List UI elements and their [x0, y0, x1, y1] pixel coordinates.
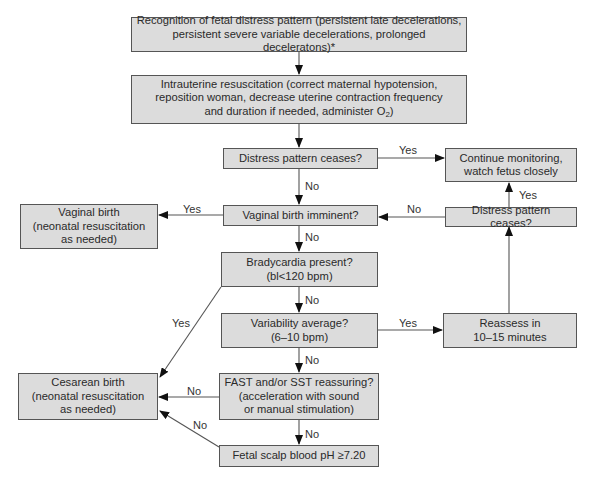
node-text: (acceleration with sound	[239, 390, 360, 404]
edge-label-fast-no-down: No	[305, 428, 319, 440]
node-text-line3: and duration if needed, administer O2)	[204, 105, 393, 122]
node-distress-ceases-1: Distress pattern ceases?	[223, 148, 378, 169]
node-text: (neonatal resuscitation	[33, 220, 146, 234]
node-text: or manual stimulation)	[244, 403, 354, 417]
node-text: Bradycardia present?	[246, 256, 352, 270]
node-text: Reassess in	[480, 317, 541, 331]
node-text: and duration if needed, administer O	[204, 105, 385, 117]
edge-label-ceases1-yes: Yes	[399, 144, 417, 156]
edge-label-brady-yes: Yes	[172, 317, 190, 329]
node-vaginal-birth: Vaginal birth (neonatal resuscitation as…	[20, 204, 158, 249]
node-text: Continue monitoring,	[459, 152, 562, 166]
node-cesarean: Cesarean birth (neonatal resuscitation a…	[18, 373, 158, 420]
node-text: Vaginal birth	[58, 206, 119, 220]
node-text: persistent severe variable decelerations…	[136, 28, 462, 55]
node-text: reposition woman, decrease uterine contr…	[155, 91, 442, 105]
node-text: Intrauterine resuscitation (correct mate…	[161, 78, 438, 92]
node-distress-ceases-2: Distress pattern ceases?	[445, 207, 577, 227]
node-text: as needed)	[60, 403, 116, 417]
node-bradycardia: Bradycardia present? (bl<120 bpm)	[221, 252, 378, 287]
node-continue-monitoring: Continue monitoring, watch fetus closely	[445, 148, 577, 182]
node-text: 10–15 minutes	[473, 331, 546, 345]
edge-label-imminent-down-no: No	[305, 231, 319, 243]
node-text: FAST and/or SST reassuring?	[225, 376, 374, 390]
edge-label-variability-no: No	[305, 354, 319, 366]
edge-label-scalp-no: No	[193, 419, 207, 431]
node-scalp-ph: Fetal scalp blood pH ≥7.20	[219, 445, 379, 467]
edge-label-brady-no: No	[305, 294, 319, 306]
edge-label-imminent-no: No	[407, 203, 421, 215]
node-text: Distress pattern ceases?	[239, 152, 362, 166]
node-resuscitation: Intrauterine resuscitation (correct mate…	[131, 75, 467, 124]
node-variability: Variability average? (6–10 bpm)	[221, 313, 378, 348]
node-text: Cesarean birth	[51, 376, 124, 390]
node-text: Distress pattern ceases?	[450, 204, 572, 231]
node-recognition: Recognition of fetal distress pattern (p…	[131, 17, 467, 52]
node-text: )	[390, 105, 394, 117]
edge-label-variability-yes: Yes	[399, 317, 417, 329]
node-text: Recognition of fetal distress pattern (p…	[137, 14, 462, 28]
node-text: watch fetus closely	[464, 165, 558, 179]
node-text: Fetal scalp blood pH ≥7.20	[232, 449, 365, 463]
node-fast-sst: FAST and/or SST reassuring? (acceleratio…	[219, 373, 379, 420]
edge-label-fast-no-left: No	[187, 385, 201, 397]
node-text: (neonatal resuscitation	[32, 390, 145, 404]
node-text: Variability average?	[251, 317, 348, 331]
node-text: (6–10 bpm)	[271, 331, 328, 345]
edge-label-ceases2-yes: Yes	[519, 189, 537, 201]
edge-label-imminent-yes: Yes	[183, 203, 201, 215]
node-vaginal-imminent: Vaginal birth imminent?	[223, 205, 378, 226]
node-text: Vaginal birth imminent?	[242, 209, 358, 223]
node-text: (bl<120 bpm)	[266, 270, 332, 284]
edge-label-ceases1-no: No	[305, 180, 319, 192]
node-reassess: Reassess in 10–15 minutes	[443, 313, 577, 348]
node-text: as needed)	[61, 233, 117, 247]
